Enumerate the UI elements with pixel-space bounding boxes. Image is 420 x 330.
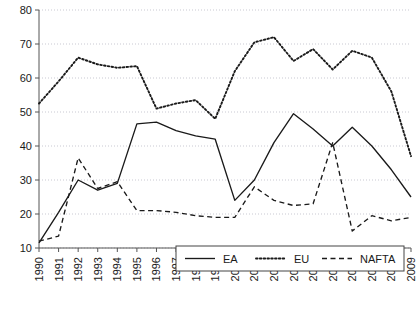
chart-legend: EAEUNAFTA — [176, 246, 404, 271]
legend-label-eu: EU — [294, 253, 309, 265]
y-tick-label: 60 — [20, 72, 32, 84]
y-tick-label: 80 — [20, 4, 32, 16]
x-tick-label: 1994 — [111, 257, 123, 281]
x-tick-label: 1990 — [33, 257, 45, 281]
x-tick-label: 1995 — [131, 257, 143, 281]
y-tick-label: 70 — [20, 38, 32, 50]
data-series — [39, 37, 411, 243]
y-tick-label: 40 — [20, 140, 32, 152]
series-line-ea — [39, 114, 411, 243]
y-axis — [35, 10, 39, 248]
y-tick-label: 10 — [20, 242, 32, 254]
x-tick-label: 1996 — [150, 257, 162, 281]
y-tick-label: 30 — [20, 174, 32, 186]
y-tick-label: 20 — [20, 208, 32, 220]
series-line-eu — [39, 37, 411, 156]
y-tick-labels: 8070605040302010 — [20, 4, 32, 254]
series-line-nafta — [39, 143, 411, 242]
line-chart: 8070605040302010 19901991199219931994199… — [0, 0, 420, 330]
grid-lines — [39, 10, 411, 248]
x-tick-label: 1991 — [53, 257, 65, 281]
x-tick-label: 1992 — [72, 257, 84, 281]
y-tick-label: 50 — [20, 106, 32, 118]
legend-label-ea: EA — [223, 253, 238, 265]
x-tick-label: 1993 — [92, 257, 104, 281]
legend-label-nafta: NAFTA — [360, 253, 396, 265]
x-tick-label: 2009 — [405, 257, 417, 281]
chart-container: 8070605040302010 19901991199219931994199… — [0, 0, 420, 330]
